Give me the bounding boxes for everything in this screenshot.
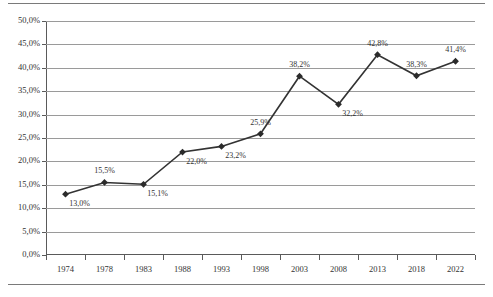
- data-point-label: 42,8%: [367, 40, 388, 48]
- data-point-label: 25,9%: [250, 119, 271, 127]
- data-point-marker: [62, 191, 69, 198]
- figure-top-rule: [8, 3, 485, 4]
- data-point-label: 22,0%: [186, 158, 207, 166]
- x-axis-tick: [163, 255, 164, 260]
- y-axis-label: 15,0%: [18, 180, 40, 189]
- y-axis-label: 25,0%: [18, 133, 40, 142]
- chart-figure: 0,0%5,0%10,0%15,0%20,0%25,0%30,0%35,0%40…: [0, 0, 493, 297]
- data-point-marker: [101, 179, 108, 186]
- x-axis-tick: [397, 255, 398, 260]
- y-axis-label: 35,0%: [18, 86, 40, 95]
- x-axis-label: 1998: [252, 264, 269, 274]
- x-axis-label: 1993: [213, 264, 230, 274]
- data-point-label: 13,0%: [69, 200, 90, 208]
- y-axis-label: 50,0%: [18, 16, 40, 25]
- data-point-marker: [218, 143, 225, 150]
- x-axis-tick: [202, 255, 203, 260]
- y-axis-label: 45,0%: [18, 39, 40, 48]
- data-point-label: 41,4%: [445, 46, 466, 54]
- x-axis-tick: [280, 255, 281, 260]
- y-axis-label: 0,0%: [22, 250, 40, 259]
- y-axis-label: 40,0%: [18, 63, 40, 72]
- x-axis-tick: [436, 255, 437, 260]
- x-axis-tick: [124, 255, 125, 260]
- data-point-marker: [452, 58, 459, 65]
- x-axis-label: 2008: [330, 264, 347, 274]
- data-point-label: 38,3%: [406, 61, 427, 69]
- y-axis-label: 10,0%: [18, 203, 40, 212]
- x-axis-label: 1988: [174, 264, 191, 274]
- x-axis-label: 2013: [369, 264, 386, 274]
- x-axis-tick: [319, 255, 320, 260]
- plot-area: 0,0%5,0%10,0%15,0%20,0%25,0%30,0%35,0%40…: [46, 21, 475, 255]
- x-axis-tick: [358, 255, 359, 260]
- y-axis-label: 30,0%: [18, 110, 40, 119]
- x-axis-tick: [46, 255, 47, 260]
- x-axis-label: 2022: [447, 264, 464, 274]
- x-axis-label: 2018: [408, 264, 425, 274]
- x-axis-tick: [241, 255, 242, 260]
- x-axis-label: 1974: [57, 264, 74, 274]
- data-point-label: 15,1%: [147, 190, 168, 198]
- data-point-label: 38,2%: [289, 61, 310, 69]
- data-point-label: 23,2%: [225, 152, 246, 160]
- data-point-label: 15,5%: [94, 167, 115, 175]
- y-axis-label: 5,0%: [22, 227, 40, 236]
- data-point-label: 32,2%: [342, 110, 363, 118]
- x-axis-tick: [85, 255, 86, 260]
- x-axis-tick: [475, 255, 476, 260]
- series-line-group: [46, 21, 475, 255]
- figure-bottom-rule: [8, 284, 485, 285]
- x-axis-label: 1983: [135, 264, 152, 274]
- x-axis-label: 1978: [96, 264, 113, 274]
- data-point-marker: [413, 72, 420, 79]
- y-axis-label: 20,0%: [18, 156, 40, 165]
- x-axis-label: 2003: [291, 264, 308, 274]
